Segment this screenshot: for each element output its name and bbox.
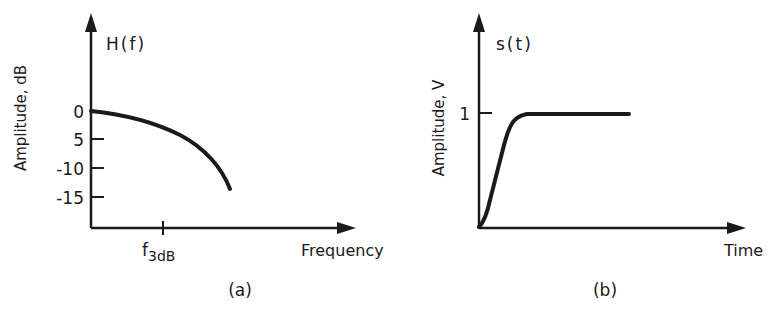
panel-b-step-response: 1 s(t) Amplitude, V Time (b): [430, 13, 763, 300]
panel-b-title: s(t): [496, 34, 533, 54]
panel-b-step-curve: [479, 114, 629, 227]
panel-a-response-curve: [91, 111, 230, 189]
panel-a-ytick-label: 0: [73, 102, 84, 122]
panel-b-ytick-label: 1: [459, 104, 470, 124]
panel-b-xlabel: Time: [723, 241, 763, 260]
figure: 0 5 -10 -15 f3dB H(f) Amplitude, dB Freq…: [0, 0, 772, 311]
panel-a-x-arrow-icon: [337, 222, 356, 234]
panel-a-caption: (a): [228, 280, 252, 300]
panel-b-y-arrow-icon: [473, 13, 485, 32]
panel-a-ytick-label: -10: [56, 159, 84, 179]
panel-a-title: H(f): [106, 34, 146, 54]
panel-b-x-arrow-icon: [727, 222, 746, 234]
panel-a-y-arrow-icon: [85, 13, 97, 32]
panel-b-ylabel: Amplitude, V: [430, 79, 448, 176]
panel-a-ylabel: Amplitude, dB: [12, 65, 30, 171]
panel-a-ytick-label: 5: [73, 130, 84, 150]
panel-b-caption: (b): [593, 280, 617, 300]
panel-a-ytick-label: -15: [56, 188, 84, 208]
panel-a-xtick-label: f3dB: [142, 240, 175, 264]
panel-a-frequency-response: 0 5 -10 -15 f3dB H(f) Amplitude, dB Freq…: [12, 13, 384, 300]
panel-a-xlabel: Frequency: [301, 241, 384, 260]
